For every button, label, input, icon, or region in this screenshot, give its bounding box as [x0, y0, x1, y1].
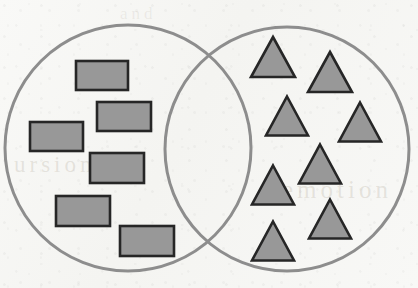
- triangle-shape[interactable]: [251, 37, 295, 77]
- triangle-shape[interactable]: [252, 222, 294, 261]
- venn-diagram-canvas: [0, 0, 418, 288]
- rectangle-shape[interactable]: [97, 102, 151, 131]
- venn-diagram-figure: and ursion emotion: [0, 0, 418, 288]
- triangle-shape[interactable]: [309, 200, 351, 239]
- triangle-shape[interactable]: [339, 103, 381, 142]
- rectangle-shape[interactable]: [56, 196, 110, 226]
- rectangle-shapes-layer: [30, 61, 174, 256]
- rectangle-shape[interactable]: [120, 226, 174, 256]
- rectangle-shape[interactable]: [30, 122, 83, 151]
- triangle-shapes-layer: [251, 37, 381, 261]
- triangle-shape[interactable]: [308, 52, 352, 92]
- triangle-shape[interactable]: [299, 145, 341, 184]
- triangle-shape[interactable]: [266, 97, 308, 136]
- rectangle-shape[interactable]: [76, 61, 128, 90]
- triangle-shape[interactable]: [252, 166, 294, 205]
- rectangle-shape[interactable]: [90, 153, 144, 183]
